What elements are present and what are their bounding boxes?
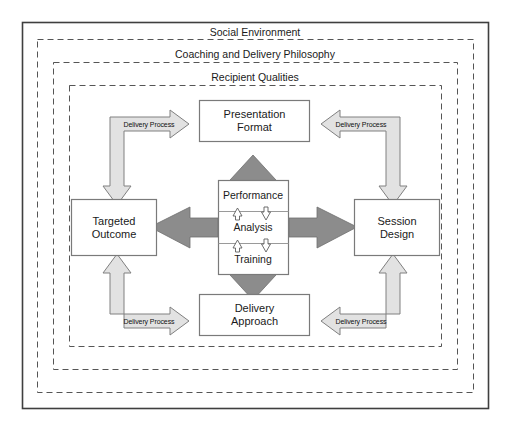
figure-canvas: Social Environment Coaching and Delivery… (0, 0, 510, 441)
node-box-targeted-outcome[interactable] (72, 200, 157, 256)
diagram-vector-layer (0, 0, 510, 441)
node-box-center-stack[interactable] (219, 181, 289, 275)
node-box-session-design[interactable] (355, 200, 440, 256)
node-box-presentation-format[interactable] (200, 101, 310, 142)
node-box-delivery-approach[interactable] (200, 295, 310, 336)
